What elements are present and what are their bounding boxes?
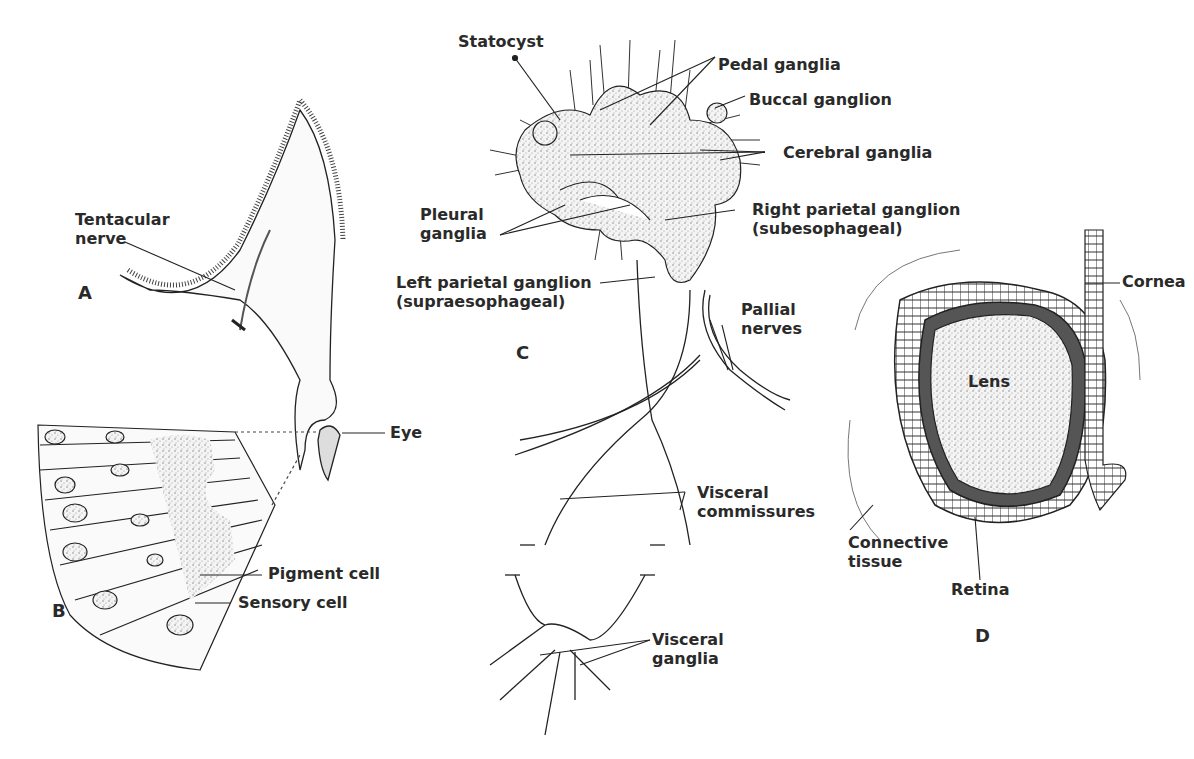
panel-label-d: D [975,625,990,646]
label-line: Right parietal ganglion [752,200,960,219]
label-pigment-cell: Pigment cell [268,564,380,583]
label-line: nerves [741,319,802,338]
label-pedal-ganglia: Pedal ganglia [718,55,841,74]
label-sensory-cell: Sensory cell [238,593,347,612]
panel-label-b: B [52,600,66,621]
label-statocyst: Statocyst [458,32,544,51]
label-line: ganglia [420,224,487,243]
label-cornea: Cornea [1122,272,1186,291]
label-cerebral-ganglia: Cerebral ganglia [783,143,932,162]
label-line: Visceral [697,483,815,502]
eye-cells-drawing [38,425,320,670]
mollusc-nervous-system-figure: Tentacular nerve A Eye Pigment cell Sens… [0,0,1194,759]
label-lens: Lens [968,372,1010,391]
ganglia-drawing [490,40,790,735]
panel-label-c: C [516,342,529,363]
label-line: tissue [848,552,948,571]
label-line: Pallial [741,300,802,319]
label-line: (supraesophageal) [396,292,592,311]
label-line: Connective [848,533,948,552]
label-visceral-commissures: Visceral commissures [697,483,815,521]
label-retina: Retina [951,580,1010,599]
label-line: Tentacular [75,210,170,229]
label-line: (subesophageal) [752,219,960,238]
label-pleural-ganglia: Pleural ganglia [420,205,487,243]
label-visceral-ganglia: Visceral ganglia [652,630,724,668]
label-right-parietal-ganglion: Right parietal ganglion (subesophageal) [752,200,960,238]
panel-label-a: A [78,282,92,303]
label-pallial-nerves: Pallial nerves [741,300,802,338]
tentacle-drawing [120,100,343,480]
label-line: Visceral [652,630,724,649]
label-line: commissures [697,502,815,521]
label-connective-tissue: Connective tissue [848,533,948,571]
illustration-drawings [0,0,1194,759]
label-line: Pleural [420,205,487,224]
label-line: Left parietal ganglion [396,273,592,292]
label-line: ganglia [652,649,724,668]
label-buccal-ganglion: Buccal ganglion [749,90,892,109]
label-tentacular-nerve: Tentacular nerve [75,210,170,248]
label-eye: Eye [390,423,422,442]
label-left-parietal-ganglion: Left parietal ganglion (supraesophageal) [396,273,592,311]
label-line: nerve [75,229,170,248]
